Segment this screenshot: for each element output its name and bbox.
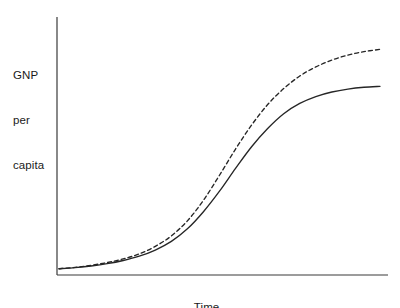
y-axis-label-line-3: capita bbox=[13, 158, 44, 173]
y-axis-label: GNP per capita bbox=[13, 38, 44, 203]
chart-figure: GNP per capita Time bbox=[0, 0, 400, 308]
solid-growth-curve bbox=[59, 86, 380, 268]
y-axis-label-line-2: per bbox=[13, 113, 44, 128]
y-axis-label-line-1: GNP bbox=[13, 68, 44, 83]
x-axis-label-text: Time bbox=[194, 300, 220, 308]
dashed-growth-curve bbox=[59, 49, 380, 268]
chart-plot-area bbox=[0, 0, 400, 308]
x-axis-label: Time bbox=[0, 285, 400, 308]
